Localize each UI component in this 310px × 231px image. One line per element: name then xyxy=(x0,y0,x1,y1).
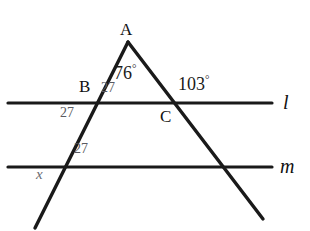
angle-103-value: 103 xyxy=(178,74,205,94)
segment-a-to-right-ray xyxy=(128,42,263,219)
angle-label-76: 76° xyxy=(114,63,136,82)
figure-canvas xyxy=(0,0,310,231)
line-label-m: m xyxy=(280,156,294,176)
annotation-27-above-line-m: 27 xyxy=(74,142,88,156)
vertex-label-c: C xyxy=(160,108,171,125)
angle-label-103: 103° xyxy=(178,74,209,93)
angle-76-value: 76 xyxy=(114,63,132,83)
vertex-label-b: B xyxy=(79,78,90,95)
annotation-27-at-b-inner: 27 xyxy=(101,81,115,95)
vertex-label-a: A xyxy=(120,21,132,38)
geometry-figure: A B C l m 76° 103° 27 27 27 x xyxy=(0,0,310,231)
degree-symbol-103: ° xyxy=(205,73,209,85)
degree-symbol-76: ° xyxy=(132,62,136,74)
annotation-unknown-x: x xyxy=(36,167,43,182)
line-label-l: l xyxy=(283,92,289,112)
annotation-27-below-line-l: 27 xyxy=(60,106,74,120)
